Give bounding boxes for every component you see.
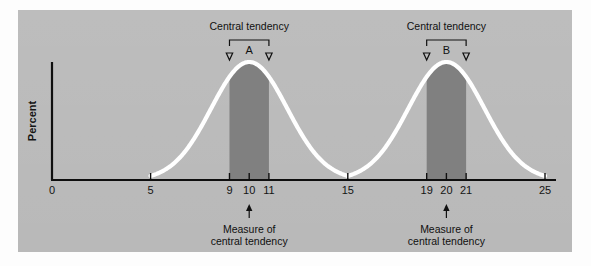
chart-svg: 05910111519202125 Percent Central tenden…	[0, 0, 591, 266]
x-tick-label-10: 10	[243, 184, 255, 196]
arrow-head-a-right	[266, 53, 272, 60]
arrow-head-b-left	[423, 53, 429, 60]
x-tick-label-0: 0	[49, 184, 55, 196]
x-tick-label-11: 11	[263, 184, 274, 196]
caption-group-b: Measure of central tendency	[408, 204, 486, 247]
x-axis-tick-labels: 05910111519202125	[49, 184, 551, 196]
peak-letter-a: A	[246, 44, 254, 56]
x-tick-label-21: 21	[460, 184, 472, 196]
arrow-head-b-right	[463, 53, 469, 60]
measure-caption-a-line1: Measure of	[223, 223, 276, 235]
x-tick-label-20: 20	[440, 184, 452, 196]
caption-arrow-head-a	[246, 204, 252, 211]
figure-container: 05910111519202125 Percent Central tenden…	[0, 0, 591, 266]
x-tick-label-15: 15	[342, 184, 354, 196]
measure-caption-a-line2: central tendency	[211, 235, 289, 247]
caption-group-a: Measure of central tendency	[211, 204, 289, 247]
central-tendency-label-a: Central tendency	[210, 20, 290, 32]
arrow-head-a-left	[226, 53, 232, 60]
annotation-group-a: Central tendency A	[210, 20, 290, 60]
x-tick-label-25: 25	[539, 184, 551, 196]
x-tick-label-19: 19	[421, 184, 433, 196]
peak-letter-b: B	[443, 44, 450, 56]
x-tick-label-9: 9	[226, 184, 232, 196]
y-axis-label: Percent	[26, 100, 38, 141]
caption-arrow-head-b	[443, 204, 449, 211]
measure-caption-b-line2: central tendency	[408, 235, 486, 247]
x-tick-label-5: 5	[148, 184, 154, 196]
measure-caption-b-line1: Measure of	[420, 223, 473, 235]
annotation-group-b: Central tendency B	[407, 20, 487, 60]
central-tendency-label-b: Central tendency	[407, 20, 487, 32]
